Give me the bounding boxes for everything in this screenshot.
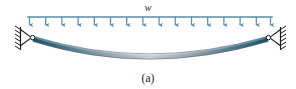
right-pin-support xyxy=(266,26,286,50)
right-support-bracket xyxy=(270,30,281,46)
left-support-pin xyxy=(30,35,34,39)
left-pin-support xyxy=(15,26,35,50)
beam-group xyxy=(33,36,268,59)
right-support-pin xyxy=(266,35,270,39)
left-support-hatching xyxy=(15,26,21,50)
left-support-bracket xyxy=(21,30,32,46)
beam-highlight xyxy=(33,37,268,55)
beam-diagram-canvas: w xyxy=(0,0,296,89)
right-support-hatching xyxy=(281,26,287,50)
load-intensity-label: w xyxy=(145,2,152,13)
distributed-load-group: w xyxy=(28,2,272,25)
beam-figure: w xyxy=(0,0,296,89)
beam-body xyxy=(33,36,268,59)
figure-caption: (a) xyxy=(142,72,155,85)
load-arrows-group xyxy=(30,17,271,25)
